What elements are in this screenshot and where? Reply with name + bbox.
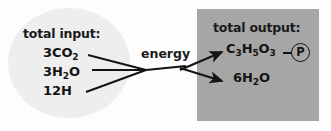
input-formula-3h2o-sub: 2 [63,71,69,81]
input-line-3co2 [88,55,146,70]
input-formula-3co2: 3CO2 [43,45,79,60]
output-formula-6h2o-tail: O [259,70,270,85]
input-heading: total input: [23,26,100,41]
output-formula-h: H [242,41,253,56]
input-formula-12h: 12H [43,83,72,98]
output-formula-6h2o-sub: 2 [253,77,259,87]
output-formula-o: O [259,41,270,56]
input-line-12h [86,70,146,92]
phosphate-icon: P [291,43,310,62]
output-formula-c-sub: 3 [235,48,241,58]
input-formula-3h2o-tail: O [69,64,80,79]
energy-label: energy [141,46,190,61]
output-formula-6h2o-base: 6H [233,70,253,85]
output-arrow-6h2o [180,68,222,81]
output-formula-c3h5o3: C3H5O3 [226,41,276,56]
input-formula-3co2-sub: 2 [72,52,78,62]
input-formula-3co2-base: 3CO [43,45,72,60]
diagram-canvas: total input: 3CO2 3H2O 12H energy total … [0,0,331,131]
input-formula-3h2o: 3H2O [43,64,80,79]
output-formula-6h2o: 6H2O [233,70,270,85]
output-formula-o-sub: 3 [270,48,276,58]
output-formula-h-sub: 5 [252,48,258,58]
input-formula-3h2o-base: 3H [43,64,63,79]
output-heading: total output: [213,20,300,35]
input-formula-12h-base: 12H [43,83,72,98]
